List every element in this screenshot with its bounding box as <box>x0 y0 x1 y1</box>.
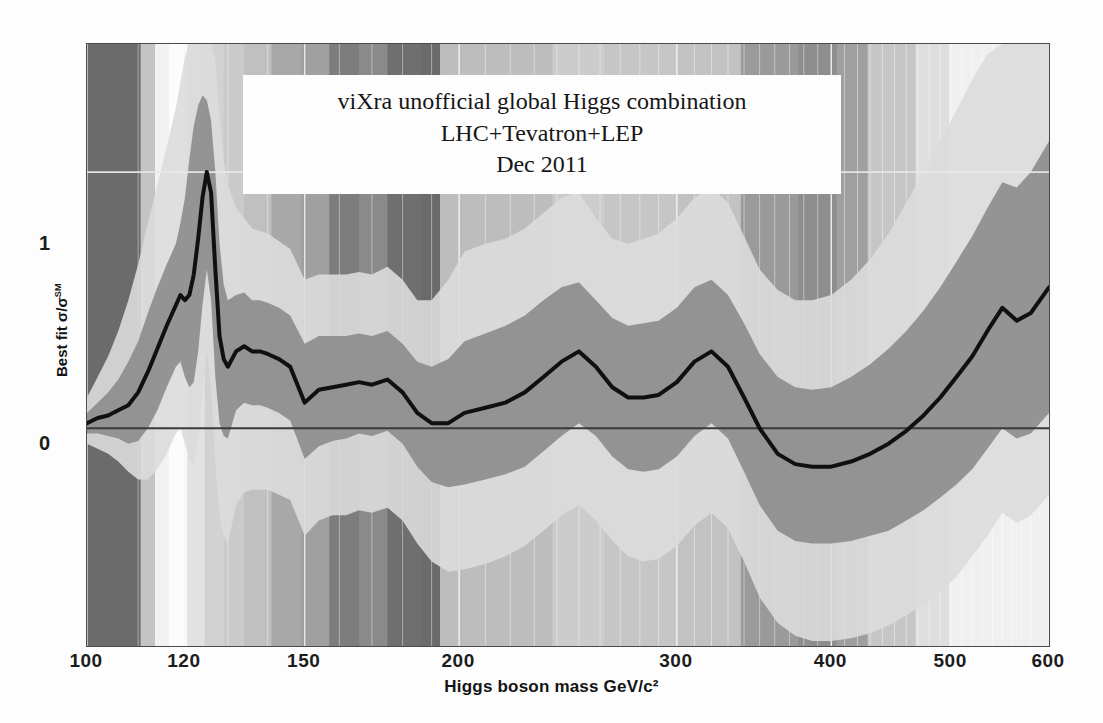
y-axis-title: Best fit σ/σSM <box>53 283 70 377</box>
y-axis-title-text: Best fit σ/σ <box>53 297 70 377</box>
y-tick-1: 1 <box>39 232 50 255</box>
x-tick-100: 100 <box>69 650 102 672</box>
x-tick-300: 300 <box>659 650 692 672</box>
figure-root: Best fit σ/σSM 1 0 viXra unofficial glob… <box>0 0 1103 723</box>
x-tick-150: 150 <box>287 650 320 672</box>
y-axis-title-superscript: SM <box>53 283 63 297</box>
y-tick-0: 0 <box>39 432 50 455</box>
x-tick-500: 500 <box>934 650 967 672</box>
x-tick-400: 400 <box>814 650 847 672</box>
x-tick-200: 200 <box>442 650 475 672</box>
chart-title-line2: Dec 2011 <box>253 149 831 181</box>
x-axis-title: Higgs boson mass GeV/c² <box>0 677 1103 697</box>
x-tick-120: 120 <box>167 650 200 672</box>
chart-title-line1: viXra unofficial global Higgs combinatio… <box>253 86 831 149</box>
chart-title-box: viXra unofficial global Higgs combinatio… <box>243 75 841 194</box>
x-tick-600: 600 <box>1031 650 1064 672</box>
